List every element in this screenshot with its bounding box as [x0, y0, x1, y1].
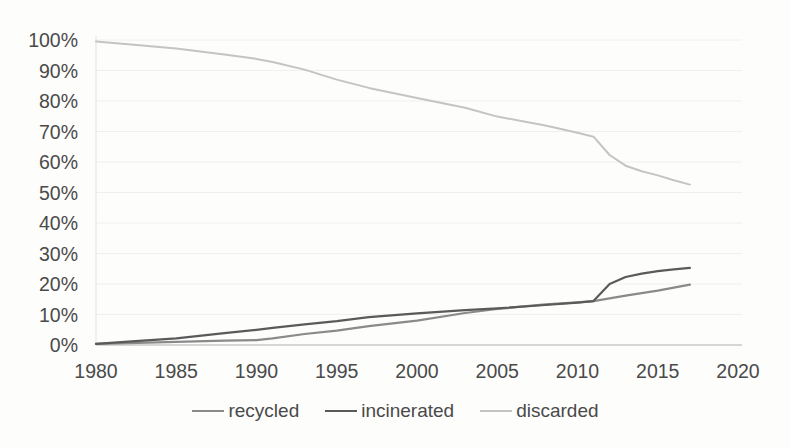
y-tick-label: 80% [39, 90, 78, 112]
legend-label-incinerated: incinerated [361, 401, 454, 420]
x-tick-label: 2005 [476, 360, 520, 382]
y-tick-label: 100% [28, 29, 78, 51]
legend-item-discarded: discarded [480, 401, 598, 420]
x-tick-label: 1995 [315, 360, 359, 382]
series-line-discarded [96, 42, 690, 185]
x-tick-label: 1990 [235, 360, 279, 382]
y-tick-label: 30% [39, 243, 78, 265]
x-tick-label: 2000 [395, 360, 439, 382]
x-tick-label: 2015 [636, 360, 680, 382]
chart-legend: recycled incinerated discarded [0, 401, 791, 420]
y-tick-label: 70% [39, 121, 78, 143]
discarded-line-swatch [480, 410, 512, 412]
series-line-incinerated [96, 268, 690, 344]
x-tick-label: 2010 [556, 360, 600, 382]
legend-item-recycled: recycled [192, 401, 299, 420]
y-tick-label: 50% [39, 182, 78, 204]
y-tick-label: 0% [50, 334, 78, 356]
y-tick-label: 90% [39, 60, 78, 82]
recycled-line-swatch [192, 410, 224, 412]
incinerated-line-swatch [325, 410, 357, 412]
legend-label-recycled: recycled [228, 401, 299, 420]
legend-item-incinerated: incinerated [325, 401, 454, 420]
x-tick-label: 2020 [716, 360, 760, 382]
y-tick-label: 60% [39, 151, 78, 173]
x-tick-label: 1980 [74, 360, 118, 382]
line-chart: 0%10%20%30%40%50%60%70%80%90%100%1980198… [0, 0, 791, 448]
x-tick-label: 1985 [155, 360, 199, 382]
y-tick-label: 40% [39, 212, 78, 234]
y-tick-label: 10% [39, 304, 78, 326]
chart-page: 0%10%20%30%40%50%60%70%80%90%100%1980198… [0, 0, 791, 448]
legend-label-discarded: discarded [516, 401, 598, 420]
y-tick-label: 20% [39, 273, 78, 295]
